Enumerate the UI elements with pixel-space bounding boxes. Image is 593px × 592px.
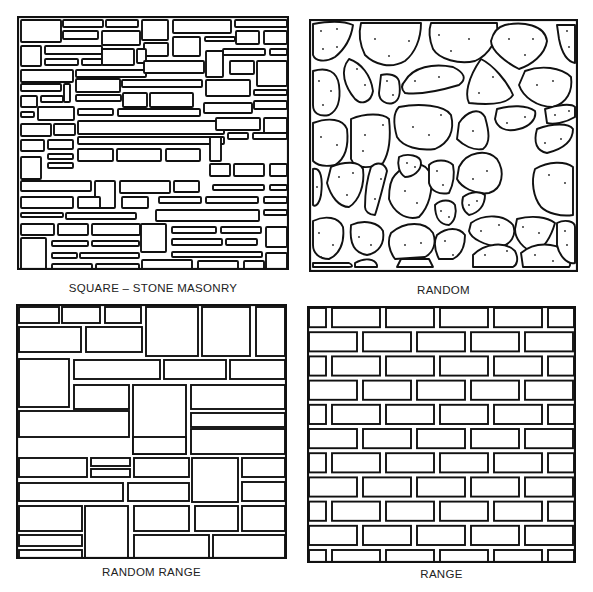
stone-texture-dot bbox=[492, 76, 494, 78]
stone-texture-dot bbox=[478, 92, 480, 94]
stone bbox=[379, 74, 400, 103]
stone bbox=[21, 84, 61, 91]
stone-texture-dot bbox=[336, 28, 338, 30]
stone bbox=[210, 137, 221, 161]
stone bbox=[394, 105, 452, 149]
stone-texture-dot bbox=[356, 68, 358, 70]
stone-texture-dot bbox=[472, 178, 474, 180]
stone-texture-dot bbox=[438, 76, 440, 78]
stone bbox=[166, 149, 200, 161]
stone bbox=[92, 224, 140, 235]
square-stone-masonry-illustration bbox=[17, 16, 289, 270]
stone bbox=[467, 59, 513, 104]
stone bbox=[54, 124, 75, 135]
stone bbox=[21, 46, 41, 66]
stone-texture-dot bbox=[468, 38, 470, 40]
stone bbox=[236, 31, 259, 44]
stone-texture-dot bbox=[428, 134, 430, 136]
stone bbox=[21, 20, 61, 42]
stone bbox=[397, 259, 433, 267]
stone-texture-dot bbox=[322, 48, 324, 50]
random-stone-illustration bbox=[309, 19, 578, 272]
stone bbox=[52, 241, 88, 246]
stone bbox=[471, 332, 519, 351]
stone bbox=[332, 502, 380, 521]
stone bbox=[63, 31, 98, 39]
stone bbox=[172, 227, 216, 233]
stone bbox=[195, 506, 238, 531]
stone bbox=[76, 95, 121, 101]
panel-random bbox=[309, 19, 578, 272]
stone bbox=[309, 405, 326, 424]
stone bbox=[548, 308, 574, 327]
panel-range bbox=[307, 306, 576, 563]
stone-texture-dot bbox=[412, 126, 414, 128]
stone bbox=[332, 453, 380, 472]
stone bbox=[48, 163, 73, 168]
panel-label-square-stone-masonry: SQUARE – STONE MASONRY bbox=[17, 282, 289, 294]
stone bbox=[226, 239, 257, 245]
stone-texture-dot bbox=[358, 236, 360, 238]
stone bbox=[102, 31, 140, 45]
stone bbox=[309, 381, 357, 400]
stone bbox=[228, 133, 248, 139]
stone bbox=[21, 197, 73, 208]
stone bbox=[21, 238, 46, 270]
stone-texture-dot bbox=[444, 240, 446, 242]
stone bbox=[525, 381, 573, 400]
stone bbox=[221, 227, 261, 233]
stone bbox=[270, 164, 287, 176]
stone-texture-dot bbox=[548, 174, 550, 176]
stone-texture-dot bbox=[380, 178, 382, 180]
stone-texture-dot bbox=[414, 80, 416, 82]
stone-texture-dot bbox=[554, 114, 556, 116]
stone bbox=[105, 307, 141, 323]
stone bbox=[309, 502, 326, 521]
stone-texture-dot bbox=[468, 204, 470, 206]
stone bbox=[91, 458, 130, 466]
stone bbox=[142, 20, 168, 40]
stone-texture-dot bbox=[386, 80, 388, 82]
stone-texture-dot bbox=[452, 254, 454, 256]
stone bbox=[548, 502, 574, 521]
stone bbox=[494, 405, 542, 424]
stone bbox=[144, 43, 168, 56]
stone bbox=[332, 356, 380, 375]
stone bbox=[21, 140, 44, 151]
stone bbox=[270, 49, 287, 55]
stone-texture-dot bbox=[382, 124, 384, 126]
stone-texture-dot bbox=[318, 80, 320, 82]
stone-texture-dot bbox=[404, 244, 406, 246]
stone bbox=[264, 31, 287, 44]
stone bbox=[257, 61, 287, 86]
stone bbox=[159, 197, 201, 203]
stone bbox=[21, 157, 41, 179]
stone-texture-dot bbox=[486, 170, 488, 172]
stone bbox=[525, 429, 573, 448]
stone bbox=[74, 360, 160, 379]
stone bbox=[164, 360, 226, 379]
stone-texture-dot bbox=[414, 166, 416, 168]
stone-texture-dot bbox=[320, 136, 322, 138]
stone bbox=[389, 224, 435, 259]
stone bbox=[242, 458, 285, 477]
stone bbox=[313, 22, 353, 61]
stone bbox=[19, 411, 129, 437]
stone-texture-dot bbox=[524, 116, 526, 118]
stone-texture-dot bbox=[320, 30, 322, 32]
stone bbox=[363, 526, 411, 545]
stone-texture-dot bbox=[362, 150, 364, 152]
stone-texture-dot bbox=[552, 80, 554, 82]
stone bbox=[254, 101, 287, 109]
stone bbox=[386, 502, 434, 521]
stone-texture-dot bbox=[538, 232, 540, 234]
stone-texture-dot bbox=[480, 230, 482, 232]
stone bbox=[266, 253, 287, 269]
stone bbox=[146, 307, 198, 356]
stone bbox=[435, 201, 456, 226]
stone bbox=[471, 477, 519, 496]
stone bbox=[417, 526, 465, 545]
stone-texture-dot bbox=[450, 50, 452, 52]
stone bbox=[134, 458, 189, 477]
stone-texture-dot bbox=[406, 162, 408, 164]
